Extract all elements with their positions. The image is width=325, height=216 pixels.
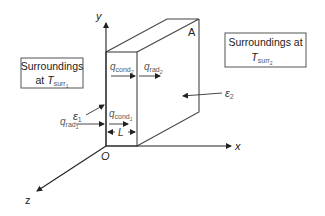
y-axis-label: y [95, 10, 103, 22]
z-axis [37, 146, 106, 191]
x-axis-label: x [234, 140, 241, 152]
corner-a-label: A [188, 26, 196, 38]
origin-label: O [101, 150, 110, 162]
q-cond-2-label: qcond2 [110, 61, 134, 75]
q-cond-1-label: qcond1 [109, 108, 133, 122]
right-surroundings-box: Surroundings at Tsurr2 [225, 33, 306, 67]
q-rad-2-label: qrad2 [144, 61, 163, 75]
eps1-label: ε1 [73, 110, 82, 123]
left-surroundings-box: Surroundings at Tsurr1 [21, 58, 83, 89]
wall-diagram: y x z O A Surroundings at Tsurr1 Surroun… [0, 0, 325, 216]
eps2-label: ε2 [225, 87, 234, 100]
thickness-label: L [118, 127, 124, 138]
right-surroundings-line1: Surroundings at [228, 36, 302, 48]
z-axis-label: z [25, 194, 31, 206]
eps2-pointer [183, 93, 222, 96]
axes [37, 23, 231, 191]
wall-top-face [106, 19, 199, 52]
wall-right-face [137, 19, 199, 146]
eps1-pointer [86, 105, 104, 115]
left-surroundings-line1: Surroundings [21, 60, 83, 72]
